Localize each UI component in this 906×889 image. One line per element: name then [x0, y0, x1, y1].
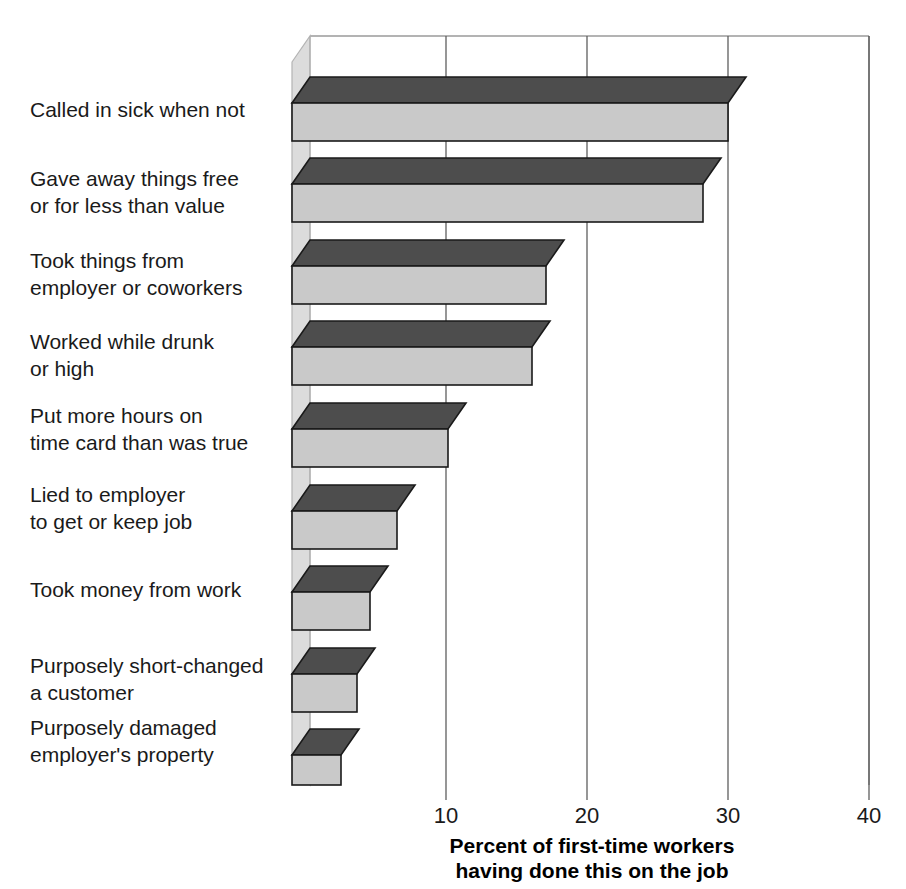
category-label: Purposely damaged	[30, 716, 217, 739]
category-label: employer's property	[30, 743, 214, 766]
category-label: Purposely short-changed	[30, 654, 263, 677]
category-label: or high	[30, 357, 94, 380]
bar-top-face	[292, 485, 415, 511]
x-tick-label: 40	[857, 803, 881, 828]
x-axis-title-line2: having done this on the job	[456, 859, 729, 882]
x-axis-caption: Percent of first-time workers having don…	[450, 834, 735, 882]
bar-row	[292, 321, 550, 385]
category-label: or for less than value	[30, 194, 225, 217]
x-tick-label: 20	[575, 803, 599, 828]
category-label: Took things from	[30, 249, 184, 272]
bar-row	[292, 240, 564, 304]
x-axis-title-line1: Percent of first-time workers	[450, 834, 735, 857]
category-labels: Called in sick when not Gave away things…	[30, 98, 263, 766]
bar-row	[292, 158, 721, 222]
bar-top-face	[292, 158, 721, 184]
bar-chart: Called in sick when not Gave away things…	[0, 0, 906, 889]
category-label: a customer	[30, 681, 134, 704]
bar-front-face	[292, 674, 357, 712]
bar-front-face	[292, 755, 341, 785]
category-label: employer or coworkers	[30, 276, 242, 299]
x-tick-label: 10	[434, 803, 458, 828]
category-label: time card than was true	[30, 431, 248, 454]
category-label: Lied to employer	[30, 483, 185, 506]
bar-front-face	[292, 592, 370, 630]
bar-top-face	[292, 240, 564, 266]
bar-top-face	[292, 321, 550, 347]
chart-page: Called in sick when not Gave away things…	[0, 0, 906, 889]
bar-row	[292, 77, 746, 141]
category-label: Put more hours on	[30, 404, 203, 427]
bar-front-face	[292, 103, 728, 141]
bar-front-face	[292, 347, 532, 385]
bar-row	[292, 485, 415, 549]
bar-top-face	[292, 403, 466, 429]
bar-front-face	[292, 429, 448, 467]
category-label: Called in sick when not	[30, 98, 245, 121]
bar-row	[292, 403, 466, 467]
bar-top-face	[292, 77, 746, 103]
category-label: Took money from work	[30, 578, 242, 601]
x-tick-label: 30	[716, 803, 740, 828]
bar-front-face	[292, 184, 703, 222]
category-label: Worked while drunk	[30, 330, 215, 353]
category-label: to get or keep job	[30, 510, 192, 533]
bar-front-face	[292, 511, 397, 549]
bar-top-face	[292, 566, 388, 592]
bar-front-face	[292, 266, 546, 304]
x-axis: 10 20 30 40	[434, 785, 881, 828]
category-label: Gave away things free	[30, 167, 239, 190]
